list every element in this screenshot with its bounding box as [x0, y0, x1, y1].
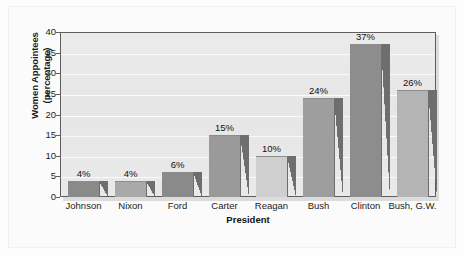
bar-value-label: 10% [247, 143, 297, 154]
bar-group[interactable]: 26% [397, 32, 429, 197]
bar-value-label: 4% [59, 168, 109, 179]
y-axis-tick-label: 30 [30, 68, 56, 78]
bar[interactable] [350, 44, 382, 197]
y-axis-tick-mark [56, 115, 60, 116]
bar-group[interactable]: 15% [209, 32, 241, 197]
y-axis-tick-mark [56, 73, 60, 74]
bar-value-label: 15% [200, 122, 250, 133]
bar-group[interactable]: 4% [68, 32, 100, 197]
bar[interactable] [256, 156, 288, 197]
y-axis-tick-mark [56, 176, 60, 177]
bar-group[interactable]: 37% [350, 32, 382, 197]
bar-shadow [193, 172, 202, 197]
y-axis-tick-label: 20 [30, 110, 56, 120]
bar-shadow [334, 98, 343, 197]
y-axis-tick-mark [56, 156, 60, 157]
bar[interactable] [303, 98, 335, 197]
bar-group[interactable]: 10% [256, 32, 288, 197]
y-axis-tick-mark [56, 94, 60, 95]
y-axis-tick-mark [56, 53, 60, 54]
y-axis-tick-label: 5 [30, 171, 56, 181]
bar[interactable] [68, 181, 100, 198]
bar[interactable] [162, 172, 194, 197]
x-axis-tick-label: Bush, G.W. [383, 200, 442, 212]
y-axis-tick-label: 40 [30, 27, 56, 37]
bar-value-label: 24% [294, 85, 344, 96]
x-axis-title: President [60, 214, 436, 225]
bar-value-label: 37% [341, 31, 391, 42]
bar[interactable] [209, 135, 241, 197]
y-axis-tick-mark [56, 135, 60, 136]
bar[interactable] [397, 90, 429, 197]
bar-shadow [428, 90, 437, 197]
bar-value-label: 26% [388, 77, 438, 88]
bar-value-label: 4% [106, 168, 156, 179]
y-axis-tick-labels: 0510152025303540 [28, 32, 56, 197]
y-axis-tick-mark [56, 197, 60, 198]
bar-shadow [99, 181, 108, 198]
y-axis-tick-label: 35 [30, 48, 56, 58]
bars-layer: 4%4%6%15%10%24%37%26% [60, 32, 436, 197]
bar-group[interactable]: 4% [115, 32, 147, 197]
chart-figure: Women Appointees (percentage) 0510152025… [0, 0, 464, 256]
bar-value-label: 6% [153, 159, 203, 170]
y-axis-tick-label: 0 [30, 192, 56, 202]
bar-shadow [146, 181, 155, 198]
bar[interactable] [115, 181, 147, 198]
y-axis-tick-label: 15 [30, 130, 56, 140]
y-axis-tick-label: 10 [30, 151, 56, 161]
bar-shadow [381, 44, 390, 197]
y-axis-tick-label: 25 [30, 89, 56, 99]
bar-group[interactable]: 24% [303, 32, 335, 197]
bar-group[interactable]: 6% [162, 32, 194, 197]
bar-shadow [287, 156, 296, 197]
y-axis-tick-mark [56, 32, 60, 33]
